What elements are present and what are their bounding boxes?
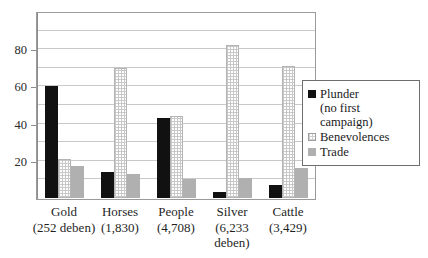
bar-cattle-trade	[295, 168, 308, 198]
y-axis-line	[37, 13, 38, 199]
x-axis-label-quantity-cont: deben)	[189, 235, 275, 251]
x-axis-label-name: Cattle	[245, 204, 331, 220]
x-axis-label-quantity: (3,429)	[245, 220, 331, 236]
legend-item-label: Benevolences	[320, 130, 389, 144]
y-axis-label: 40	[0, 119, 31, 131]
legend-item-trade[interactable]: Trade	[308, 145, 413, 159]
legend-item-sublabel: (no first campaign)	[320, 101, 413, 129]
legend-item-label: Trade	[320, 145, 349, 159]
bar-silver-plunder	[213, 192, 226, 198]
bar-horses-trade	[127, 174, 140, 198]
y-axis-label: 60	[0, 81, 31, 93]
y-axis-label: 20	[0, 156, 31, 168]
bar-silver-benev	[226, 45, 239, 198]
legend-item-plunder[interactable]: Plunder(no first campaign)	[308, 87, 413, 129]
bar-people-plunder	[157, 118, 170, 198]
bar-gold-benev	[58, 159, 71, 198]
bar-chart: 80604020 Gold(252 deben)Horses(1,830)Peo…	[0, 0, 428, 258]
legend-item-text: Plunder(no first campaign)	[320, 87, 413, 129]
bar-horses-plunder	[101, 172, 114, 198]
bar-group-horses	[101, 12, 140, 198]
legend-item-benevolences[interactable]: Benevolences	[308, 130, 413, 144]
bar-silver-trade	[239, 178, 252, 198]
bar-gold-trade	[71, 166, 84, 198]
plunder-swatch-icon	[308, 90, 316, 98]
bar-people-trade	[183, 179, 196, 198]
chart-legend: Plunder(no first campaign)BenevolencesTr…	[302, 80, 420, 166]
trade-swatch-icon	[308, 148, 316, 156]
plot-area	[36, 12, 316, 200]
bar-horses-benev	[114, 68, 127, 198]
bar-cattle-benev	[282, 66, 295, 198]
x-axis-label-cattle: Cattle(3,429)	[245, 204, 331, 235]
legend-item-text: Benevolences	[320, 130, 389, 144]
bar-cattle-plunder	[269, 185, 282, 198]
bar-group-gold	[45, 12, 84, 198]
benevolences-swatch-icon	[308, 133, 316, 141]
bar-gold-plunder	[45, 86, 58, 198]
legend-item-text: Trade	[320, 145, 349, 159]
bar-group-people	[157, 12, 196, 198]
legend-item-label: Plunder	[320, 87, 413, 101]
bar-people-benev	[170, 116, 183, 198]
bar-group-silver	[213, 12, 252, 198]
y-axis-label: 80	[0, 44, 31, 56]
